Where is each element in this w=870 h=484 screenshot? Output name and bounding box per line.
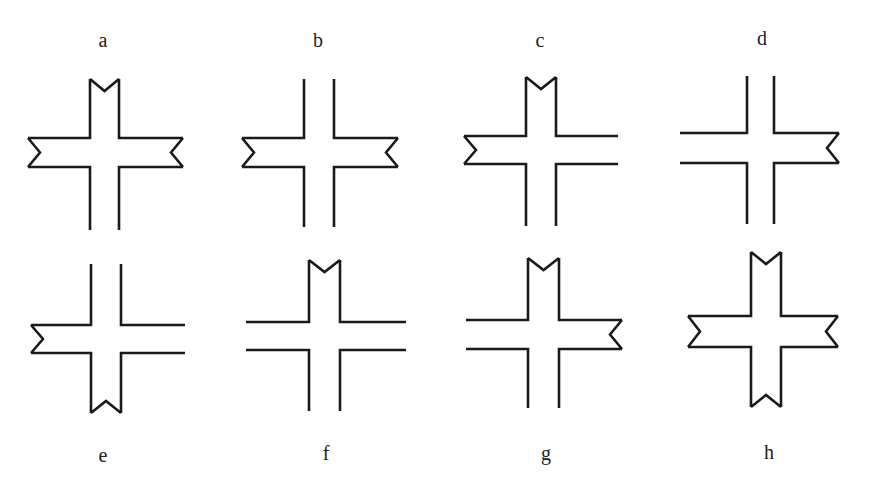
cross-e [31, 264, 185, 413]
cross-label-e: e [99, 445, 108, 465]
cross-label-h: h [764, 442, 774, 462]
cross-c-outline [464, 77, 618, 226]
cross-c [464, 77, 618, 226]
cross-label-d: d [757, 28, 767, 48]
cross-a-outline [28, 79, 183, 230]
cross-b-outline [242, 79, 398, 227]
cross-h-outline [688, 252, 838, 407]
cross-g-outline [466, 258, 622, 408]
cross-d-outline [680, 76, 839, 224]
cross-label-b: b [313, 30, 323, 50]
cross-e-outline [31, 264, 185, 413]
cross-f [246, 260, 406, 411]
cross-label-g: g [541, 443, 551, 463]
cross-figure-canvas [0, 0, 870, 484]
cross-f-outline [246, 260, 406, 411]
cross-h [688, 252, 838, 407]
cross-label-f: f [323, 443, 330, 463]
cross-b [242, 79, 398, 227]
cross-label-a: a [99, 30, 108, 50]
cross-a [28, 79, 183, 230]
cross-d [680, 76, 839, 224]
cross-label-c: c [536, 30, 545, 50]
cross-g [466, 258, 622, 408]
